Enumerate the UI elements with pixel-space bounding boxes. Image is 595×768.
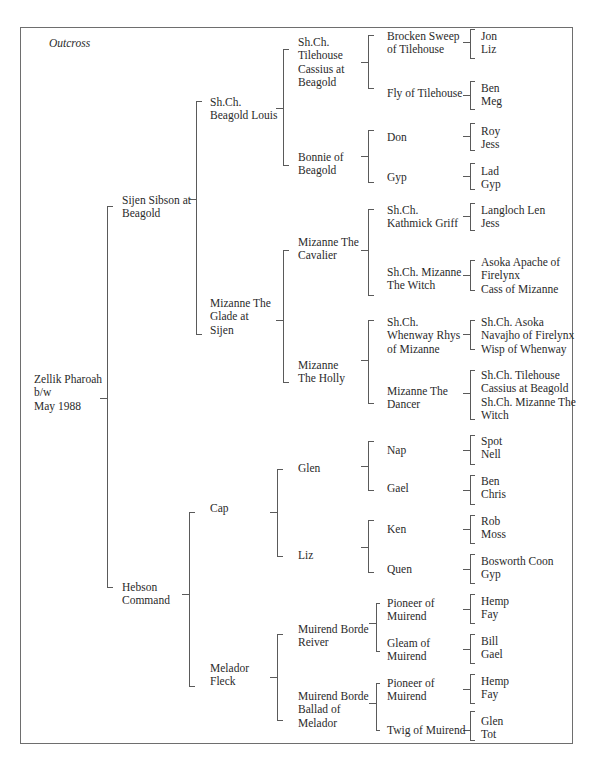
pedigree-node-sdd: Mizanne The Holly [298,359,345,386]
pedigree-node-dssd: Gael [387,482,409,495]
bracket-connector [463,370,475,419]
pedigree-node-sdss: Sh.Ch. Kathmick Griff [387,204,458,231]
pedigree-node-sss: Sh.Ch. Tilehouse Cassius at Beagold [298,36,344,89]
pedigree-node-g4_10: Ben Chris [481,475,506,502]
bracket-connector [463,475,475,504]
bracket-connector [361,209,374,295]
bracket-connector [361,320,374,403]
pedigree-node-g4_03: Roy Jess [481,125,500,152]
bracket-connector [361,441,374,490]
pedigree-node-dsdd: Quen [387,563,412,576]
bracket-connector [369,603,380,651]
pedigree-node-ss: Sh.Ch. Beagold Louis [210,96,277,123]
pedigree-node-g4_09: Spot Nell [481,435,502,462]
pedigree-node-dsss: Nap [387,444,406,457]
pedigree-node-sssd: Fly of Tilehouse [387,87,462,100]
pedigree-node-sdsd: Sh.Ch. Mizanne The Witch [387,266,461,293]
pedigree-node-g4_14: Bill Gael [481,635,503,662]
bracket-connector [463,554,475,583]
bracket-connector [270,634,283,720]
bracket-connector [463,320,475,349]
pedigree-node-sdds: Sh.Ch. Whenway Rhys of Mizanne [387,316,460,356]
pedigree-node-sire: Sijen Sibson at Beagold [122,194,191,221]
pedigree-node-g4_13: Hemp Fay [481,595,509,622]
bracket-connector [463,163,475,189]
bracket-connector [463,203,475,230]
bracket-connector [463,29,475,58]
pedigree-node-sd: Mizanne The Glade at Sijen [210,297,271,337]
pedigree-node-g4_16: Glen Tot [481,715,503,742]
pedigree-node-g4_01: Jon Liz [481,30,497,57]
pedigree-node-g4_02: Ben Meg [481,82,502,109]
bracket-connector [361,520,374,572]
pedigree-node-subject: Zellik Pharoah b/w May 1988 [34,373,102,413]
pedigree-node-g4_11: Rob Moss [481,515,506,542]
pedigree-node-dsd: Liz [298,549,313,562]
pedigree-node-ssds: Don [387,131,407,144]
bracket-connector [463,674,475,703]
bracket-connector [182,512,195,686]
bracket-connector [463,594,475,623]
pedigree-node-ddd: Muirend Borde Ballad of Melador [298,690,369,730]
bracket-connector [369,683,380,730]
bracket-connector [463,515,475,543]
pedigree-node-dam: Hebson Command [122,581,170,608]
pedigree-node-g4_06: Asoka Apache of Firelynx Cass of Mizanne [481,256,560,296]
pedigree-node-ddds: Pioneer of Muirend [387,677,435,704]
pedigree-node-dd: Melador Fleck [210,662,249,689]
pedigree-node-ddsd: Gleam of Muirend [387,637,430,664]
pedigree-node-dsds: Ken [387,523,406,536]
bracket-connector [276,250,289,382]
bracket-connector [463,634,475,663]
pedigree-node-g4_05: Langloch Len Jess [481,204,545,231]
pedigree-node-g4_15: Hemp Fay [481,675,509,702]
pedigree-node-ds: Cap [210,502,229,515]
pedigree-node-dds: Muirend Borde Reiver [298,623,369,650]
bracket-connector [463,260,475,290]
bracket-connector [463,123,475,150]
bracket-connector [463,81,475,109]
pedigree-node-dss: Glen [298,462,320,475]
pedigree-node-ssd: Bonnie of Beagold [298,151,344,178]
pedigree-node-g4_08: Sh.Ch. Tilehouse Cassius at Beagold Sh.C… [481,369,576,422]
pedigree-node-g4_12: Bosworth Coon Gyp [481,555,554,582]
bracket-connector [463,435,475,464]
pedigree-node-ddss: Pioneer of Muirend [387,597,435,624]
pedigree-node-sddd: Mizanne The Dancer [387,385,448,412]
pedigree-node-sds: Mizanne The Cavalier [298,236,359,263]
pedigree-node-g4_07: Sh.Ch. Asoka Navajho of Firelynx Wisp of… [481,316,574,356]
pedigree-node-ssss: Brocken Sweep of Tilehouse [387,30,460,57]
bracket-connector [270,469,283,556]
bracket-connector [276,49,289,165]
bracket-connector [361,130,374,182]
pedigree-node-ssdd: Gyp [387,171,407,184]
bracket-connector [361,35,374,88]
pedigree-node-dddd: Twig of Muirend [387,724,465,737]
pedigree-node-g4_04: Lad Gyp [481,165,501,192]
